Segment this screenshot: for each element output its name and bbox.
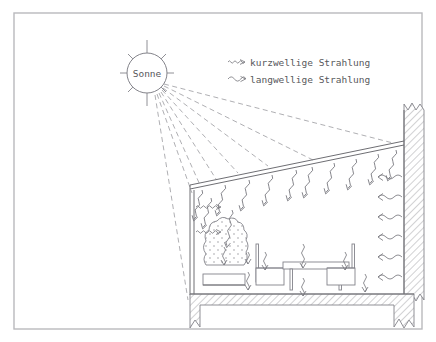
longwave-arrow-icon: [385, 149, 399, 181]
longwave-arrow-icon: [378, 254, 402, 261]
left-glass-wall: [190, 189, 194, 295]
legend-item-longwave: langwellige Strahlung: [228, 74, 370, 85]
shortwave-squiggle-arrow-icon: [228, 60, 245, 65]
longwave-arrow-icon: [238, 179, 252, 211]
armchair-base: [203, 274, 245, 285]
legend-item-shortwave: kurzwellige Strahlung: [228, 57, 370, 68]
longwave-arrow-icon: [245, 272, 251, 290]
longwave-arrow-icon: [285, 169, 299, 201]
legend: kurzwellige Strahlung langwellige Strahl…: [228, 57, 370, 85]
longwave-arrow-icon: [261, 174, 275, 206]
longwave-arrow-icon: [367, 153, 381, 185]
longwave-arrow-icon: [362, 274, 368, 292]
legend-label-longwave: langwellige Strahlung: [250, 74, 370, 85]
figure-canvas: Sonne: [0, 0, 436, 342]
right-wall-longwave-arrows: [378, 174, 402, 281]
radiation-diagram: Sonne: [0, 0, 436, 342]
right-masonry-wall: [400, 100, 430, 310]
longwave-arrow-icon: [345, 158, 359, 190]
sun-label: Sonne: [133, 68, 162, 79]
floor-slab: [185, 290, 420, 332]
longwave-arrow-icon: [300, 278, 306, 296]
legend-label-shortwave: kurzwellige Strahlung: [250, 57, 370, 68]
chair-left: [256, 244, 284, 285]
longwave-arrow-icon: [262, 252, 268, 270]
sun-group: Sonne: [120, 40, 174, 106]
longwave-arrow-icon: [214, 184, 228, 216]
longwave-arrow-icon: [301, 166, 315, 198]
longwave-arrow-icon: [378, 194, 402, 201]
longwave-arrow-icon: [378, 234, 402, 241]
longwave-squiggle-arrow-icon: [228, 76, 246, 81]
longwave-arrow-icon: [378, 214, 402, 221]
longwave-arrow-icon: [323, 162, 337, 194]
longwave-arrow-icon: [378, 274, 402, 281]
